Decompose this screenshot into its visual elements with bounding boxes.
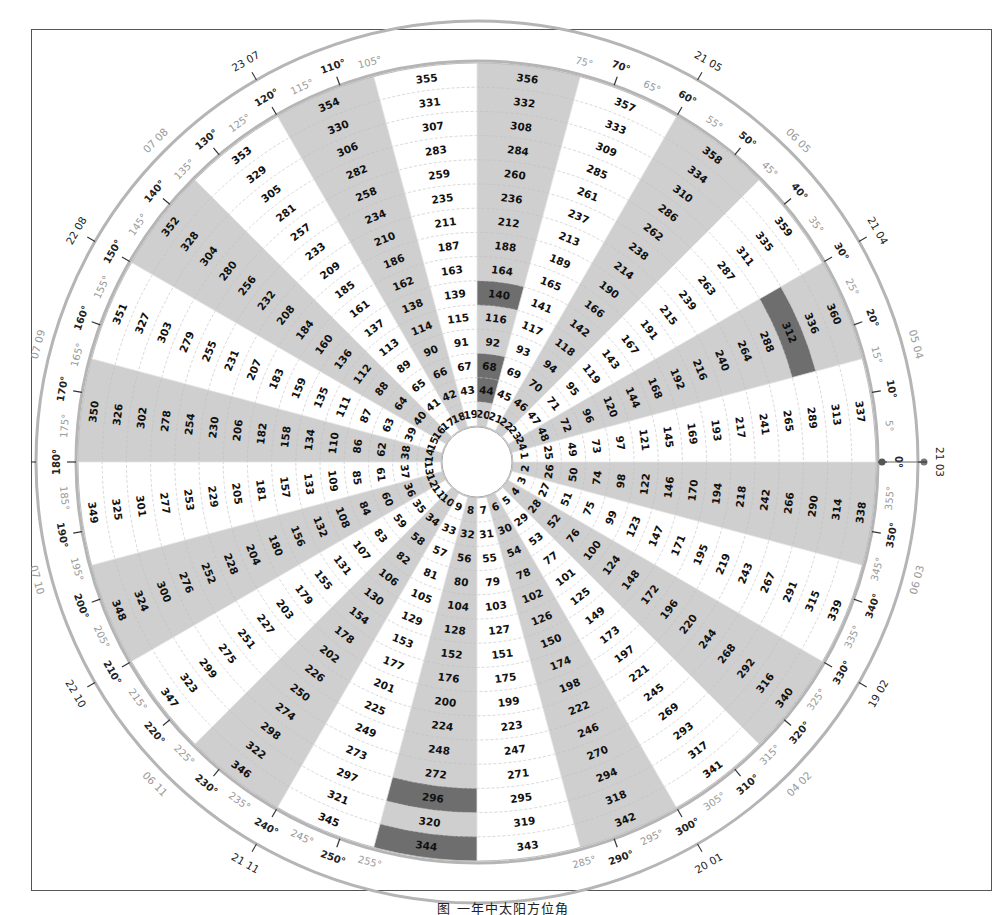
- date-label: 05 04: [907, 328, 926, 360]
- day-number: 49: [566, 441, 580, 457]
- degree-label-major: 160°: [72, 304, 91, 332]
- degree-label-minor: 65°: [642, 78, 663, 95]
- center-hole: [442, 427, 512, 497]
- day-number: 67: [456, 359, 472, 373]
- day-number: 257: [288, 220, 313, 243]
- day-number: 307: [421, 119, 444, 134]
- day-number: 259: [427, 167, 450, 182]
- day-number: 267: [758, 570, 777, 595]
- degree-label-minor: 15°: [869, 345, 884, 365]
- day-number: 75: [580, 499, 597, 517]
- degree-label-major: 230°: [193, 772, 220, 797]
- day-number: 321: [326, 787, 351, 806]
- degree-label-major: 50°: [737, 129, 759, 150]
- date-label: 07 10: [28, 564, 47, 596]
- day-number: 337: [853, 400, 868, 423]
- day-number: 125: [568, 585, 593, 608]
- degree-label-major: 240°: [253, 815, 281, 837]
- day-number: 265: [781, 409, 796, 432]
- day-number: 329: [244, 163, 269, 186]
- date-label: 21 05: [692, 48, 724, 73]
- day-number: 87: [357, 407, 374, 425]
- day-number: 315: [802, 588, 821, 613]
- date-label: 22 09: [8, 447, 20, 477]
- day-number: 251: [235, 626, 258, 651]
- date-label: 21 11: [229, 850, 261, 875]
- zero-marker-dot: [879, 459, 886, 466]
- day-number: 345: [317, 810, 342, 829]
- day-number: 85: [350, 470, 364, 486]
- day-number: 25: [542, 445, 556, 461]
- day-number: 44: [478, 383, 494, 397]
- day-number: 291: [780, 579, 799, 604]
- day-number: 45: [496, 387, 514, 404]
- day-number: 113: [376, 336, 401, 359]
- day-number: 169: [685, 422, 700, 445]
- day-number: 229: [206, 485, 221, 508]
- day-number: 59: [391, 511, 409, 530]
- degree-label-minor: 105°: [357, 54, 383, 71]
- date-label: 21 03: [934, 447, 946, 477]
- degree-label-major: 220°: [142, 719, 167, 746]
- degree-label-major: 250°: [319, 848, 347, 867]
- day-number: 74: [590, 470, 604, 486]
- degree-label-minor: 355°: [883, 486, 896, 511]
- day-number: 97: [614, 435, 628, 451]
- day-number: 3: [514, 475, 528, 486]
- degree-label-major: 170°: [55, 375, 70, 402]
- day-number: 283: [424, 143, 447, 158]
- day-number: 99: [603, 508, 620, 526]
- day-number: 351: [110, 302, 129, 327]
- day-number: 253: [182, 488, 197, 511]
- date-label: 19 02: [865, 677, 890, 709]
- day-number: 325: [110, 498, 125, 521]
- day-number: 185: [332, 278, 357, 301]
- day-number: 203: [274, 597, 297, 622]
- day-number: 293: [671, 719, 696, 742]
- day-number: 317: [685, 738, 710, 761]
- day-number: 51: [558, 490, 575, 508]
- day-number: 227: [255, 612, 278, 637]
- degree-label-major: 300°: [674, 815, 702, 837]
- day-number: 213: [557, 229, 582, 248]
- degree-label-major: 40°: [789, 181, 810, 203]
- day-number: 77: [541, 549, 560, 567]
- day-number: 89: [394, 357, 413, 375]
- day-number: 295: [510, 790, 533, 805]
- degree-label-minor: 115°: [289, 77, 315, 97]
- date-label: 06 03: [907, 564, 926, 596]
- day-number: 235: [431, 191, 454, 206]
- day-number: 105: [409, 586, 434, 605]
- date-label: 21 04: [865, 214, 891, 246]
- day-number: 201: [372, 676, 397, 695]
- day-number: 311: [734, 244, 757, 269]
- degree-label-minor: 75°: [574, 54, 594, 69]
- day-number: 109: [326, 469, 341, 492]
- day-number: 239: [677, 288, 700, 313]
- day-number: 91: [453, 335, 469, 349]
- day-number: 155: [312, 567, 335, 592]
- degree-label-major: 210°: [101, 659, 123, 687]
- day-number: 31: [478, 527, 494, 541]
- day-number: 233: [303, 240, 328, 263]
- day-number: 157: [278, 476, 293, 499]
- day-number: 111: [333, 394, 352, 419]
- day-number: 32: [460, 527, 476, 541]
- degree-label-major: 310°: [734, 772, 761, 797]
- day-number: 39: [402, 425, 419, 443]
- day-number: 231: [222, 348, 241, 373]
- sun-azimuth-dial: 1254973971211451691932172412652893133372…: [0, 0, 1006, 915]
- day-number: 249: [354, 720, 379, 739]
- degree-label-major: 60°: [677, 88, 699, 107]
- day-number: 287: [715, 258, 738, 283]
- day-number: 115: [446, 311, 469, 326]
- degree-label-major: 120°: [253, 86, 281, 108]
- day-number: 301: [134, 495, 149, 518]
- day-number: 2: [518, 464, 531, 473]
- day-number: 117: [520, 318, 545, 337]
- day-number: 179: [293, 582, 316, 607]
- day-number: 93: [514, 342, 532, 359]
- date-label: 20 01: [692, 850, 724, 875]
- day-number: 181: [254, 479, 269, 502]
- degree-label-minor: 345°: [868, 556, 885, 582]
